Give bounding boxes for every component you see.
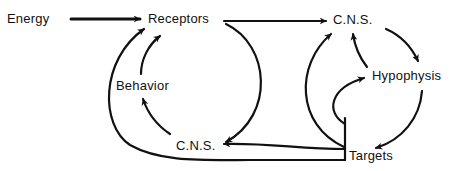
diagram-arrows <box>0 0 469 171</box>
edge-cns-bottom-behavior <box>143 99 170 134</box>
diagram-canvas: Energy Receptors C.N.S. Hypophysis Behav… <box>0 0 469 171</box>
edge-targets-cns-top <box>306 34 344 147</box>
node-cns-bottom: C.N.S. <box>176 139 215 152</box>
node-behavior: Behavior <box>116 79 169 92</box>
node-targets: Targets <box>349 149 393 162</box>
edge-targets-hypophysis <box>333 78 364 124</box>
node-hypophysis: Hypophysis <box>372 69 441 82</box>
edge-behavior-receptors <box>141 36 160 74</box>
edge-cns-top-hypophysis <box>386 29 418 61</box>
node-cns-top: C.N.S. <box>333 13 372 26</box>
edge-hypophysis-targets <box>376 91 422 148</box>
edge-hypophysis-cns-top <box>353 34 367 67</box>
node-energy: Energy <box>7 12 49 25</box>
edge-targets-cns-bottom <box>224 144 345 149</box>
edge-receptors-cns-bottom <box>226 24 261 142</box>
node-receptors: Receptors <box>148 12 209 25</box>
